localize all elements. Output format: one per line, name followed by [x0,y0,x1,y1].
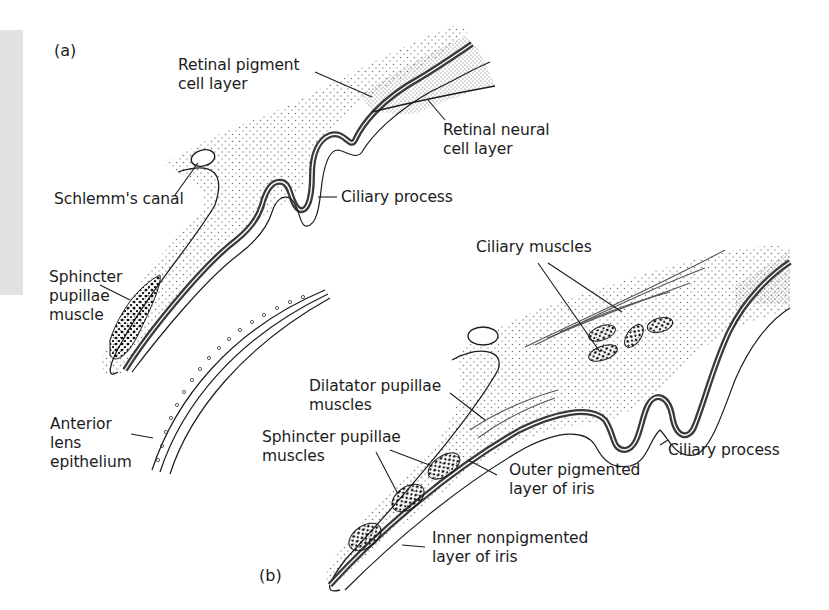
label-schlemms-canal-a: Schlemm's canal [54,190,184,209]
label-ciliary-process-b: Ciliary process [668,441,780,460]
eye-anatomy-diagram [0,0,829,610]
label-inner-nonpigmented-layer: Inner nonpigmented layer of iris [432,529,588,567]
label-retinal-pigment-cell-layer: Retinal pigment cell layer [178,56,300,94]
label-sphincter-pupillae-muscle-a: Sphincter pupillae muscle [49,268,122,325]
label-anterior-lens-epithelium: Anterior lens epithelium [50,415,132,472]
label-outer-pigmented-layer: Outer pigmented layer of iris [509,461,640,499]
label-dilatator-pupillae-muscles: Dilatator pupillae muscles [309,377,441,415]
label-ciliary-process-a: Ciliary process [341,188,453,207]
label-ciliary-muscles: Ciliary muscles [476,238,592,257]
label-sphincter-pupillae-muscles-b: Sphincter pupillae muscles [262,428,401,466]
panel-b-label: (b) [259,566,282,585]
panel-a-label: (a) [54,41,76,60]
label-retinal-neural-cell-layer: Retinal neural cell layer [443,121,550,159]
